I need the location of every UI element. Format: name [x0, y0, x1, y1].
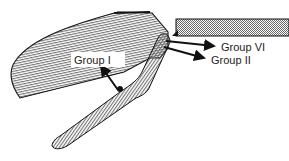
- group-1-label: Group I: [74, 54, 111, 66]
- group-6-label: Group VI: [221, 41, 265, 53]
- arrow-group-6: [166, 41, 214, 46]
- arrow-group-2: [164, 47, 204, 58]
- diagram-svg: Group I Group VI Group II: [0, 0, 289, 161]
- fixed-plate: [172, 19, 289, 36]
- diagram-canvas: Group I Group VI Group II: [0, 0, 289, 161]
- group-2-label: Group II: [211, 54, 251, 66]
